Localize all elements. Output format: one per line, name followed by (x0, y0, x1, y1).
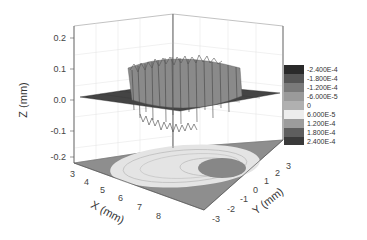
y-tick: 0 (253, 185, 258, 195)
y-tick: -3 (212, 214, 220, 224)
x-tick: 8 (156, 211, 161, 221)
surface-3d-chart: 0.2 0.1 0.0 -0.1 -0.2 Z (mm) 3 4 5 6 7 8… (0, 0, 367, 240)
colorbar-label: -6.000E-5 (307, 93, 338, 100)
z-tick: -0.1 (50, 126, 66, 136)
z-tick: 0.0 (53, 95, 66, 105)
colorbar-label: 1.800E-4 (307, 129, 336, 136)
z-tick: 0.2 (53, 33, 66, 43)
y-tick: 1 (264, 176, 269, 186)
colorbar-legend: -2.400E-4 -1.800E-4 -1.200E-4 -6.000E-5 … (284, 65, 338, 145)
x-tick: 7 (137, 202, 142, 212)
x-tick: 3 (70, 169, 75, 179)
y-tick: -2 (227, 204, 235, 214)
colorbar-label: -1.800E-4 (307, 75, 338, 82)
z-tick: -0.2 (50, 152, 66, 162)
z-axis: 0.2 0.1 0.0 -0.1 -0.2 Z (mm) (17, 33, 74, 162)
y-tick: -1 (240, 194, 248, 204)
colorbar-label: 1.200E-4 (307, 120, 336, 127)
x-tick: 5 (100, 185, 105, 195)
z-axis-title: Z (mm) (17, 82, 29, 117)
z-tick: 0.1 (53, 64, 66, 74)
colorbar-label: 2.400E-4 (307, 138, 336, 145)
colorbar-label: -2.400E-4 (307, 66, 338, 73)
colorbar-label: -1.200E-4 (307, 84, 338, 91)
y-tick: 2 (275, 168, 280, 178)
x-tick: 6 (118, 193, 123, 203)
colorbar-label: 0 (307, 102, 311, 109)
y-tick: 3 (286, 161, 291, 171)
colorbar-label: 6.000E-5 (307, 111, 336, 118)
x-tick: 4 (84, 177, 89, 187)
